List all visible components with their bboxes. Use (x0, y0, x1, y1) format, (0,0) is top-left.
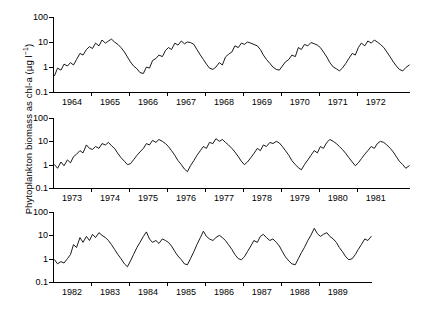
y-tick-label: 0.1 (35, 88, 48, 97)
x-tick (129, 92, 130, 96)
x-tick-label: 1989 (328, 288, 348, 297)
x-tick-label: 1965 (100, 98, 120, 107)
x-tick (167, 92, 168, 96)
x-tick-label: 1970 (290, 98, 310, 107)
x-tick (205, 92, 206, 96)
y-tick-label: 10 (38, 38, 48, 47)
x-tick (205, 188, 206, 192)
x-tick-label: 1985 (176, 288, 196, 297)
x-tick-label: 1977 (214, 194, 234, 203)
x-tick-label: 1986 (214, 288, 234, 297)
x-tick-label: 1979 (290, 194, 310, 203)
x-tick (243, 92, 244, 96)
x-tick-label: 1964 (62, 98, 82, 107)
x-tick (281, 282, 282, 286)
y-tick-label: 100 (33, 13, 48, 22)
data-series-line (53, 17, 410, 92)
x-tick (91, 188, 92, 192)
x-tick (357, 92, 358, 96)
x-tick-label: 1982 (62, 288, 82, 297)
y-tick-label: 0.1 (35, 184, 48, 193)
x-axis-line (53, 282, 372, 283)
y-axis-title-close: ) (23, 44, 34, 47)
x-tick-label: 1969 (252, 98, 272, 107)
y-tick-label: 10 (38, 137, 48, 146)
data-series-line (53, 118, 410, 188)
x-tick-label: 1988 (290, 288, 310, 297)
x-tick-label: 1967 (176, 98, 196, 107)
x-tick-label: 1978 (252, 194, 272, 203)
y-tick-label: 100 (33, 208, 48, 217)
y-tick (49, 282, 53, 283)
y-axis-title-exponent: −1 (22, 47, 29, 55)
x-tick (243, 282, 244, 286)
x-tick-label: 1974 (100, 194, 120, 203)
x-tick (205, 282, 206, 286)
figure-root: Phytoplankton biomass as chl-a (µg l−1) … (0, 0, 423, 312)
x-tick (91, 282, 92, 286)
x-tick (319, 282, 320, 286)
y-tick-label: 0.1 (35, 278, 48, 287)
x-tick (91, 92, 92, 96)
x-tick-label: 1984 (138, 288, 158, 297)
x-tick-label: 1975 (138, 194, 158, 203)
x-tick-label: 1983 (100, 288, 120, 297)
chart-panel-1: 1001010.11964196519661967196819691970197… (53, 17, 410, 92)
x-tick-label: 1968 (214, 98, 234, 107)
x-tick (319, 92, 320, 96)
x-tick-label: 1966 (138, 98, 158, 107)
x-tick-label: 1980 (328, 194, 348, 203)
y-tick-label: 1 (43, 254, 48, 263)
x-tick-label: 1973 (62, 194, 82, 203)
x-tick-label: 1972 (366, 98, 386, 107)
x-tick (243, 188, 244, 192)
y-tick (49, 92, 53, 93)
x-tick (167, 188, 168, 192)
chart-panel-3: 1001010.11982198319841985198619871988198… (53, 212, 372, 282)
data-series-line (53, 212, 372, 282)
y-tick-label: 1 (43, 63, 48, 72)
y-axis-title-main: Phytoplankton biomass as chl-a (µg l (23, 55, 34, 214)
y-tick (49, 188, 53, 189)
x-tick-label: 1981 (366, 194, 386, 203)
y-tick-label: 100 (33, 114, 48, 123)
x-tick-label: 1971 (328, 98, 348, 107)
x-tick (281, 92, 282, 96)
y-tick-label: 10 (38, 231, 48, 240)
y-tick-label: 1 (43, 160, 48, 169)
x-tick (357, 188, 358, 192)
chart-panel-2: 1001010.11973197419751976197719781979198… (53, 118, 410, 188)
x-tick-label: 1976 (176, 194, 196, 203)
x-tick (167, 282, 168, 286)
x-tick-label: 1987 (252, 288, 272, 297)
x-tick (129, 282, 130, 286)
x-tick (281, 188, 282, 192)
x-tick (129, 188, 130, 192)
x-tick (319, 188, 320, 192)
